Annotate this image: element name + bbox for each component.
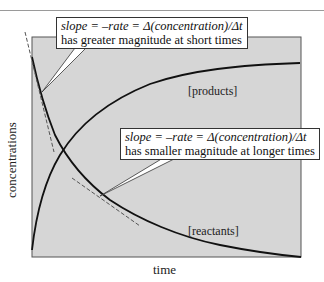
products-label: [products] [188, 84, 237, 99]
callout-longer-times: slope = –rate = Δ(concentration)/Δt has … [120, 128, 320, 160]
callout-short-times: slope = –rate = Δ(concentration)/Δt has … [56, 17, 248, 49]
callout-equation: slope = –rate = Δ(concentration)/Δt [125, 130, 315, 144]
y-axis-label: concentrations [4, 122, 20, 198]
callout-text: has smaller magnitude at longer times [125, 144, 315, 158]
reactants-label: [reactants] [188, 224, 239, 239]
x-axis-label: time [153, 262, 176, 278]
callout-text: has greater magnitude at short times [61, 33, 243, 47]
callout-equation: slope = –rate = Δ(concentration)/Δt [61, 19, 243, 33]
